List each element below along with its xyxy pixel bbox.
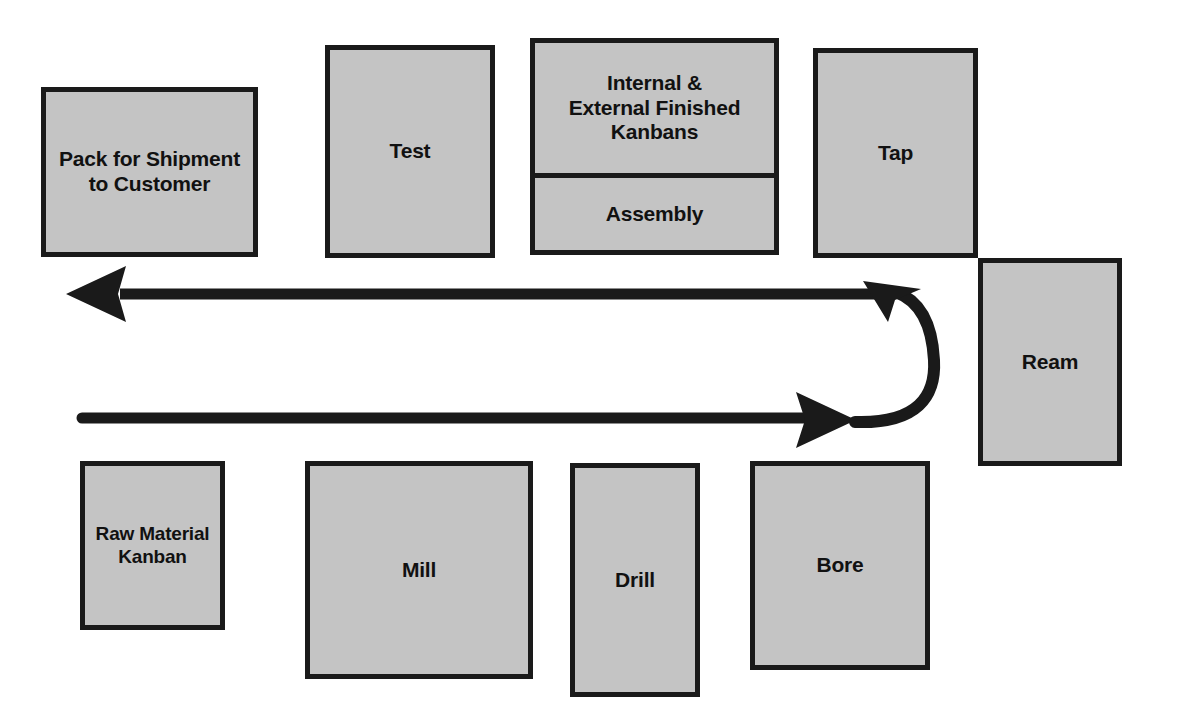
u-turn-arrow-head-up [863,281,921,322]
u-turn-connector-path [855,292,934,422]
diagram-canvas: Pack for Shipment to Customer Test Inter… [0,0,1184,723]
node-ream-label: Ream [983,350,1117,375]
node-raw-material-line1: Raw Material [85,523,220,545]
node-test[interactable]: Test [325,45,495,258]
node-raw-material-line2: Kanban [85,546,220,568]
node-pack-line1: Pack for Shipment [46,147,253,172]
node-pack-line2: to Customer [46,172,253,197]
node-kanbans-line1: Internal & [535,71,774,96]
node-mill-label: Mill [310,558,528,583]
node-bore[interactable]: Bore [750,461,930,670]
node-mill[interactable]: Mill [305,461,533,679]
node-assembly-label: Assembly [535,202,774,227]
node-kanbans-line3: Kanbans [535,120,774,145]
node-drill-label: Drill [575,568,695,593]
node-pack-for-shipment[interactable]: Pack for Shipment to Customer [41,87,258,257]
node-assembly-segment[interactable]: Assembly [535,178,774,250]
return-arrow-head-left [66,266,126,322]
node-bore-label: Bore [755,553,925,578]
node-kanbans-assembly[interactable]: Internal & External Finished Kanbans Ass… [530,38,779,255]
node-ream[interactable]: Ream [978,258,1122,466]
node-tap[interactable]: Tap [813,48,978,258]
forward-arrow-head-right [796,392,856,448]
node-kanbans-segment[interactable]: Internal & External Finished Kanbans [535,43,774,178]
node-kanbans-line2: External Finished [535,96,774,121]
node-drill[interactable]: Drill [570,463,700,697]
node-test-label: Test [330,139,490,164]
node-raw-material-kanban[interactable]: Raw Material Kanban [80,461,225,630]
node-tap-label: Tap [818,141,973,166]
